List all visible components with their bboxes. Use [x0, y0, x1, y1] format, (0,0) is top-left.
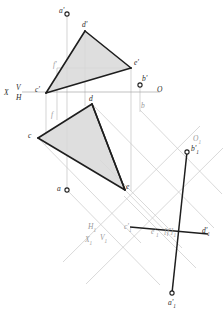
label-c: c — [28, 132, 31, 140]
line-a1-prime-b1-prime — [172, 152, 187, 293]
triangle-c-d-e-front-view — [46, 31, 131, 93]
label-d-prime: d' — [82, 21, 87, 29]
point-marker-a1-prime — [170, 291, 174, 295]
label-e: e — [126, 183, 129, 191]
label-f-prime: f' — [53, 61, 57, 69]
label-b: b — [141, 102, 145, 110]
label-a1-prime: a'1 — [168, 299, 176, 309]
label-b1-prime: b'1 — [191, 145, 199, 155]
label-v1: V1 — [100, 234, 107, 244]
label-o: O — [157, 86, 162, 94]
label-d1-prime: d'1 — [202, 227, 210, 237]
point-marker-b1-prime — [185, 150, 189, 154]
label-c-prime: c' — [35, 86, 40, 94]
label-f: f — [51, 111, 53, 119]
drawing-sheet: X V H O a' d' e' f' b' c' d b f c O1 b'1… — [0, 0, 223, 312]
point-marker-a-prime — [65, 12, 69, 16]
label-c1-prime: c'1 — [124, 223, 132, 233]
label-v: V — [16, 84, 21, 92]
vertex-dot-d — [91, 103, 93, 105]
label-b-prime: b' — [142, 75, 147, 83]
point-marker-a — [65, 188, 69, 192]
label-h1: H1 — [88, 223, 96, 233]
vertex-dot-e-prime — [130, 67, 132, 69]
label-h: H — [16, 94, 21, 102]
rail-a-to-a1 — [67, 190, 160, 285]
rail-e-to-e1 — [125, 190, 182, 248]
label-a: a — [57, 185, 61, 193]
label-f1-prime: [f']1 — [164, 228, 176, 238]
label-e1-prime: e'1 — [151, 228, 159, 238]
label-x1: X1 — [85, 236, 92, 246]
geometry-drawing — [0, 0, 223, 312]
point-marker-b-prime — [138, 83, 142, 87]
vertex-dot-c-prime — [45, 92, 47, 94]
label-x: X — [4, 89, 9, 97]
vertex-dot-d-prime — [84, 30, 86, 32]
label-e-prime: e' — [134, 59, 139, 67]
label-a-prime: a' — [59, 7, 64, 15]
label-d: d — [89, 95, 93, 103]
rail-b-to-b1 — [140, 110, 222, 194]
vertex-dot-c — [37, 137, 39, 139]
